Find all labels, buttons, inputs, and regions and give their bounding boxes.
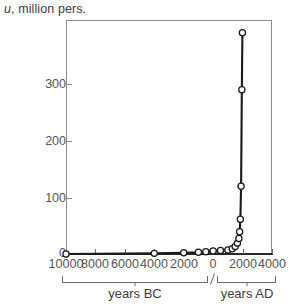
data-point [237, 229, 243, 235]
data-series-layer [0, 0, 304, 308]
data-point [210, 248, 216, 254]
data-point [217, 247, 223, 253]
data-point [63, 251, 69, 257]
data-point [181, 250, 187, 256]
data-point [239, 87, 245, 93]
data-point [195, 249, 201, 255]
population-curve [66, 33, 242, 254]
data-point [203, 249, 209, 255]
data-point [239, 30, 245, 36]
data-point [236, 235, 242, 241]
population-data-markers [63, 30, 246, 257]
chart-figure: u, million pers. 300 200 100 0 10000 800… [0, 0, 304, 308]
data-point [238, 183, 244, 189]
data-point [151, 250, 157, 256]
data-point [237, 216, 243, 222]
